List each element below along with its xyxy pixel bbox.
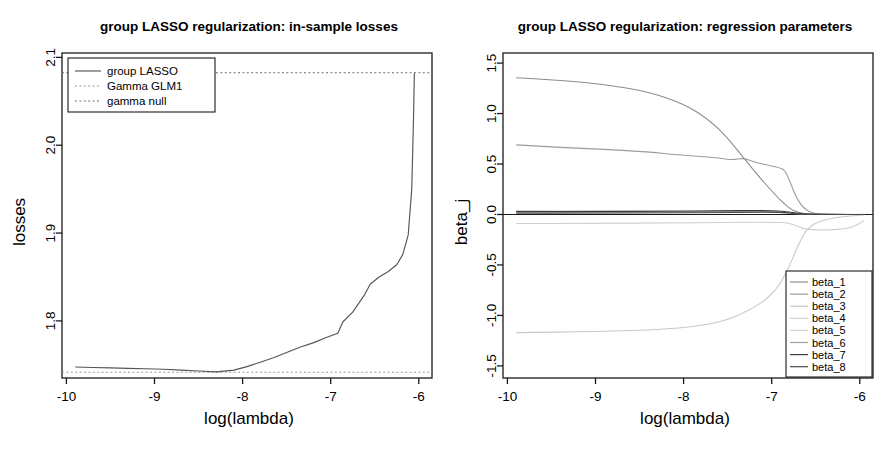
y-tick-label: 2.1 bbox=[44, 48, 59, 67]
x-tick-label: -9 bbox=[148, 389, 160, 404]
x-tick-label: -10 bbox=[57, 389, 77, 404]
y-tick-label: 2.0 bbox=[44, 136, 59, 155]
legend-label-beta_6: beta_6 bbox=[812, 337, 846, 349]
plot-in-sample-losses: group LASSO regularization: in-sample lo… bbox=[0, 0, 445, 465]
x-tick-label: -6 bbox=[854, 389, 866, 404]
y-tick-label: 0.0 bbox=[485, 205, 500, 224]
figure-canvas: group LASSO regularization: in-sample lo… bbox=[0, 0, 890, 465]
legend-label-beta_5: beta_5 bbox=[812, 324, 846, 336]
x-tick-label: -8 bbox=[237, 389, 249, 404]
legend-label-beta_4: beta_4 bbox=[812, 312, 846, 324]
legend-label-beta_3: beta_3 bbox=[812, 300, 846, 312]
x-tick-label: -7 bbox=[766, 389, 778, 404]
panel-title-losses: group LASSO regularization: in-sample lo… bbox=[100, 19, 398, 34]
legend-label-beta_1: beta_1 bbox=[812, 276, 846, 288]
panel-in-sample-losses: group LASSO regularization: in-sample lo… bbox=[0, 0, 445, 465]
y-axis-label-betas: beta_j bbox=[452, 199, 471, 245]
legend-label-beta_8: beta_8 bbox=[812, 361, 846, 373]
x-tick-label: -8 bbox=[678, 389, 690, 404]
x-tick-label: -6 bbox=[413, 389, 425, 404]
legend-label-group-lasso: group LASSO bbox=[107, 65, 178, 77]
x-tick-label: -7 bbox=[325, 389, 337, 404]
legend-label-beta_2: beta_2 bbox=[812, 288, 846, 300]
legend-label-beta_7: beta_7 bbox=[812, 349, 846, 361]
y-tick-label: -0.5 bbox=[485, 253, 500, 276]
y-tick-label: 1.9 bbox=[44, 224, 59, 243]
x-axis-label-betas: log(lambda) bbox=[640, 409, 730, 428]
y-tick-label: -1.0 bbox=[485, 304, 500, 327]
y-tick-label: 1.5 bbox=[485, 54, 500, 73]
panel-title-betas: group LASSO regularization: regression p… bbox=[518, 19, 853, 34]
plot-regression-parameters: group LASSO regularization: regression p… bbox=[445, 0, 890, 465]
x-axis-label-losses: log(lambda) bbox=[204, 409, 294, 428]
y-tick-label: -1.5 bbox=[485, 354, 500, 377]
y-tick-label: 0.5 bbox=[485, 155, 500, 174]
panel-regression-parameters: group LASSO regularization: regression p… bbox=[445, 0, 890, 465]
y-tick-label: 1.8 bbox=[44, 312, 59, 331]
y-axis-label-losses: losses bbox=[10, 198, 29, 246]
x-tick-label: -9 bbox=[589, 389, 601, 404]
x-tick-label: -10 bbox=[498, 389, 518, 404]
legend-label-gamma-glm1: Gamma GLM1 bbox=[107, 80, 182, 92]
y-tick-label: 1.0 bbox=[485, 104, 500, 123]
legend-label-gamma-null: gamma null bbox=[107, 95, 166, 107]
